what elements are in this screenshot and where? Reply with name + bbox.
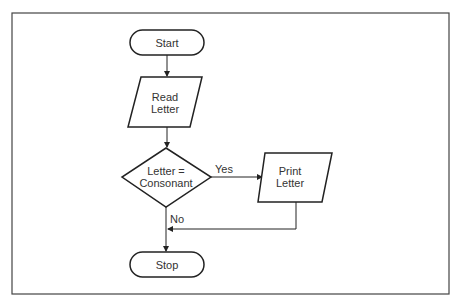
read-label-1: Read [135,91,195,103]
frame-border [12,13,449,294]
stop-label: Stop [130,259,204,271]
start-label: Start [130,37,204,49]
read-label-2: Letter [135,103,195,115]
flowchart-canvas [0,0,456,302]
decision-label-1: Letter = [131,165,201,177]
yes-label: Yes [212,163,236,175]
print-label-1: Print [265,165,315,177]
print-label-2: Letter [265,177,315,189]
no-label: No [165,213,189,225]
decision-label-2: Consonant [131,177,201,189]
